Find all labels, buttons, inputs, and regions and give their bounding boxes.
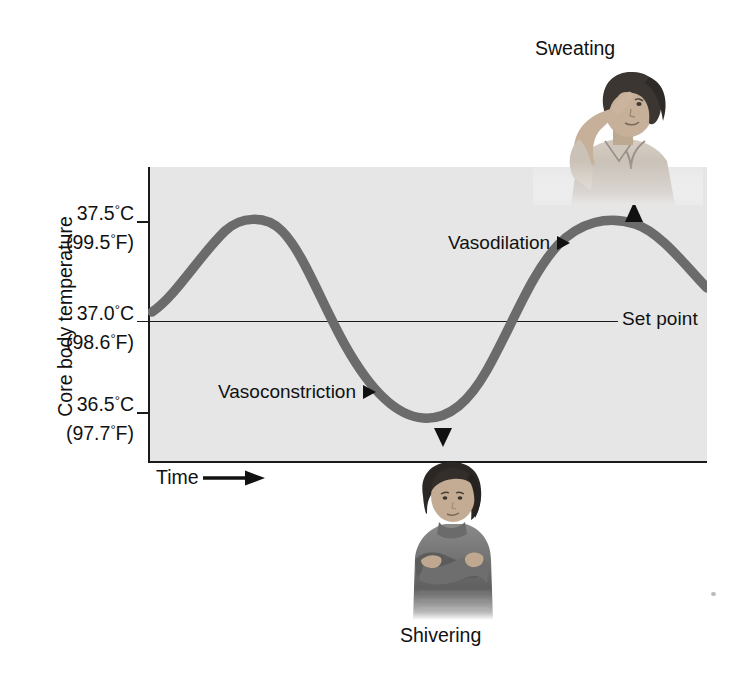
annotation-vasodilation: Vasodilation — [448, 232, 570, 254]
shivering-photo — [395, 460, 505, 620]
y-tick-fahrenheit-unit: F) — [116, 231, 134, 253]
set-point-label: Set point — [622, 308, 698, 330]
y-tick-celsius-unit: C — [120, 302, 134, 324]
y-tick-36-5 — [137, 412, 150, 414]
set-point-line — [137, 321, 618, 322]
y-tick-celsius-value: 37.5 — [77, 202, 115, 224]
arrow-right-icon — [557, 236, 570, 250]
scan-speck — [711, 592, 716, 596]
y-tick-celsius-unit: C — [120, 202, 134, 224]
shivering-caption: Shivering — [400, 624, 481, 647]
sweating-photo — [533, 65, 703, 205]
y-tick-fahrenheit-unit: F) — [116, 331, 134, 353]
annotation-vasodilation-label: Vasodilation — [448, 232, 550, 254]
shivering-photo-illustration — [395, 460, 505, 620]
annotation-vasoconstriction: Vasoconstriction — [218, 381, 376, 403]
time-arrow-icon — [201, 468, 267, 488]
y-tick-celsius-value: 37.0 — [77, 302, 115, 324]
thermoregulation-figure: Set point 37.5°C (99.5°F) 37.0°C (98.6°F… — [0, 0, 749, 673]
y-tick-fahrenheit-unit: F) — [116, 422, 134, 444]
y-tick-37-5 — [137, 221, 150, 223]
arrow-right-icon — [363, 385, 376, 399]
y-tick-celsius-value: 36.5 — [77, 393, 115, 415]
y-tick-celsius-unit: C — [120, 393, 134, 415]
x-axis-label-text: Time — [156, 466, 199, 489]
annotation-vasoconstriction-label: Vasoconstriction — [218, 381, 356, 403]
y-axis-title: Core body temperature — [54, 192, 77, 442]
sweating-caption: Sweating — [535, 37, 615, 60]
y-axis-line — [148, 167, 150, 463]
sweating-photo-illustration — [533, 65, 703, 205]
x-axis-label: Time — [156, 466, 267, 489]
